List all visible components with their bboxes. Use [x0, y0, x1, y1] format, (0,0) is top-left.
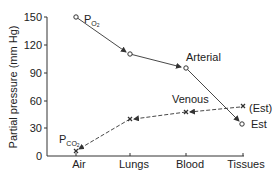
x-tick-air: Air: [72, 158, 86, 170]
pco2-label: PCO2: [59, 133, 80, 148]
po2-label: PO2: [84, 13, 100, 28]
x-tick-tissues: Tissues: [227, 158, 265, 170]
y-tick-30: 30: [30, 122, 42, 134]
y-axis: 150 120 90 60 30 0 Partial pressure (mm …: [7, 11, 47, 162]
venous-label: Venous: [172, 93, 209, 105]
x-tick-blood: Blood: [176, 158, 204, 170]
est-co2-label: (Est): [249, 102, 272, 114]
y-tick-0: 0: [36, 150, 42, 162]
x-tick-lungs: Lungs: [119, 158, 149, 170]
annotations: PO2 Arterial Est Venous (Est) PCO2: [59, 13, 272, 148]
y-tick-90: 90: [30, 67, 42, 79]
y-tick-150: 150: [24, 11, 42, 23]
y-tick-60: 60: [30, 95, 42, 107]
y-tick-120: 120: [24, 39, 42, 51]
arterial-label: Arterial: [186, 51, 221, 63]
series-pco2: [74, 104, 245, 153]
est-o2-label: Est: [251, 118, 267, 130]
chart: 150 120 90 60 30 0 Partial pressure (mm …: [0, 0, 279, 182]
y-axis-label: Partial pressure (mm Hg): [7, 26, 19, 149]
x-axis: Air Lungs Blood Tissues: [47, 153, 265, 170]
